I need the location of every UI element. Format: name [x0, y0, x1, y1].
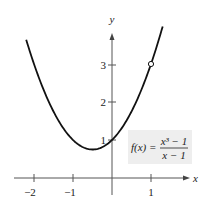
y-tick-label: 1 — [101, 134, 107, 146]
open-circle-hole-icon — [148, 61, 153, 66]
x-tick-label: −1 — [64, 186, 76, 198]
y-axis-label: y — [109, 13, 115, 25]
y-axis-arrow-icon — [110, 33, 115, 40]
x-tick-label: −2 — [24, 186, 36, 198]
formula-denominator: x − 1 — [161, 149, 185, 161]
formula-lhs: f(x) = — [131, 141, 156, 154]
formula-numerator: x³ − 1 — [160, 135, 188, 147]
y-tick-label: 2 — [101, 96, 107, 108]
x-tick-label: 1 — [148, 186, 154, 198]
function-graph: −2 −1 1 x 1 2 3 y f(x) = x³ − 1 x − 1 — [0, 0, 208, 203]
x-axis-label: x — [192, 172, 198, 184]
y-tick-label: 3 — [101, 59, 107, 71]
x-axis-arrow-icon — [183, 176, 190, 181]
